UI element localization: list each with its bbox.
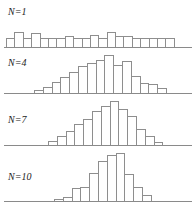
histogram-bar xyxy=(142,195,152,201)
bar-group-n10 xyxy=(54,153,152,201)
baseline-n7 xyxy=(4,145,192,146)
histogram-bar xyxy=(154,142,164,145)
plot-area-n10 xyxy=(0,152,196,202)
bar-group-n4 xyxy=(34,55,167,93)
panel-label-n1: N=1 xyxy=(8,7,26,17)
bar-group-n7 xyxy=(48,101,163,145)
histogram-bar xyxy=(157,88,167,93)
central-limit-theorem-figure: N=1 N=4 N=7 N=10 xyxy=(0,0,196,213)
baseline-n10 xyxy=(4,201,192,202)
plot-area-n7 xyxy=(0,100,196,146)
bar-group-n1 xyxy=(6,32,175,47)
plot-area-n1 xyxy=(0,22,196,48)
histogram-bar xyxy=(165,38,174,47)
panel-label-n1-text: N=1 xyxy=(8,6,26,17)
baseline-n1 xyxy=(4,47,192,48)
plot-area-n4 xyxy=(0,52,196,94)
baseline-n4 xyxy=(4,93,192,94)
